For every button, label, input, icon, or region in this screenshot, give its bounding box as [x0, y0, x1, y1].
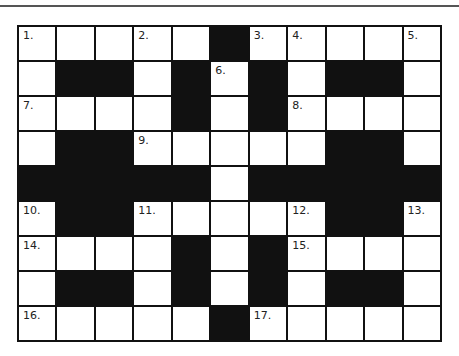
- clue-number: 17.: [254, 310, 272, 321]
- crossword-cell[interactable]: [288, 272, 324, 305]
- crossword-black-cell: [173, 237, 209, 270]
- top-rule-divider: [0, 5, 459, 7]
- crossword-cell[interactable]: [173, 307, 209, 340]
- crossword-cell[interactable]: [365, 307, 401, 340]
- crossword-cell[interactable]: [250, 132, 286, 165]
- crossword-cell[interactable]: 8.: [288, 97, 324, 130]
- clue-number: 9.: [138, 135, 149, 146]
- crossword-cell[interactable]: [365, 27, 401, 60]
- crossword-cell[interactable]: [57, 97, 93, 130]
- crossword-cell[interactable]: 10.: [19, 202, 55, 235]
- crossword-cell[interactable]: [211, 272, 247, 305]
- crossword-cell[interactable]: 12.: [288, 202, 324, 235]
- clue-number: 14.: [23, 240, 41, 251]
- clue-number: 8.: [292, 100, 303, 111]
- crossword-grid: 1.2.3.4.5.6.7.8.9.10.11.12.13.14.15.16.1…: [17, 25, 442, 342]
- crossword-cell[interactable]: [57, 27, 93, 60]
- crossword-cell[interactable]: [404, 97, 440, 130]
- crossword-black-cell: [211, 307, 247, 340]
- crossword-cell[interactable]: [404, 272, 440, 305]
- crossword-cell[interactable]: 11.: [134, 202, 170, 235]
- crossword-cell[interactable]: [327, 97, 363, 130]
- crossword-cell[interactable]: 16.: [19, 307, 55, 340]
- crossword-cell[interactable]: [211, 167, 247, 200]
- crossword-cell[interactable]: [211, 97, 247, 130]
- crossword-cell[interactable]: [173, 27, 209, 60]
- crossword-cell[interactable]: 6.: [211, 62, 247, 95]
- crossword-cell[interactable]: 17.: [250, 307, 286, 340]
- crossword-cell[interactable]: [19, 132, 55, 165]
- clue-number: 6.: [215, 65, 226, 76]
- crossword-cell[interactable]: [327, 307, 363, 340]
- clue-number: 10.: [23, 205, 41, 216]
- crossword-cell[interactable]: [404, 132, 440, 165]
- crossword-black-cell: [19, 167, 55, 200]
- crossword-black-cell: [211, 27, 247, 60]
- crossword-cell[interactable]: [96, 307, 132, 340]
- crossword-cell[interactable]: 7.: [19, 97, 55, 130]
- crossword-cell[interactable]: [288, 307, 324, 340]
- crossword-black-cell: [327, 62, 363, 95]
- crossword-black-cell: [327, 272, 363, 305]
- crossword-cell[interactable]: [134, 62, 170, 95]
- crossword-cell[interactable]: [404, 62, 440, 95]
- crossword-cell[interactable]: [211, 202, 247, 235]
- crossword-cell[interactable]: [57, 237, 93, 270]
- crossword-cell[interactable]: [134, 237, 170, 270]
- crossword-black-cell: [173, 167, 209, 200]
- crossword-cell[interactable]: 3.: [250, 27, 286, 60]
- crossword-black-cell: [173, 97, 209, 130]
- crossword-cell[interactable]: [19, 62, 55, 95]
- crossword-cell[interactable]: [404, 237, 440, 270]
- crossword-cell[interactable]: [134, 97, 170, 130]
- crossword-black-cell: [365, 272, 401, 305]
- crossword-black-cell: [96, 202, 132, 235]
- crossword-black-cell: [327, 202, 363, 235]
- clue-number: 3.: [254, 30, 265, 41]
- crossword-cell[interactable]: 15.: [288, 237, 324, 270]
- crossword-cell[interactable]: [96, 27, 132, 60]
- crossword-cell[interactable]: 4.: [288, 27, 324, 60]
- clue-number: 15.: [292, 240, 310, 251]
- clue-number: 2.: [138, 30, 149, 41]
- crossword-cell[interactable]: [96, 237, 132, 270]
- clue-number: 4.: [292, 30, 303, 41]
- crossword-cell[interactable]: 9.: [134, 132, 170, 165]
- clue-number: 5.: [408, 30, 419, 41]
- crossword-cell[interactable]: [327, 27, 363, 60]
- crossword-cell[interactable]: 1.: [19, 27, 55, 60]
- crossword-cell[interactable]: [250, 202, 286, 235]
- crossword-cell[interactable]: 13.: [404, 202, 440, 235]
- crossword-cell[interactable]: 5.: [404, 27, 440, 60]
- crossword-cell[interactable]: [288, 132, 324, 165]
- crossword-black-cell: [327, 167, 363, 200]
- crossword-cell[interactable]: [211, 132, 247, 165]
- crossword-cell[interactable]: [327, 237, 363, 270]
- crossword-black-cell: [57, 62, 93, 95]
- crossword-black-cell: [96, 272, 132, 305]
- crossword-cell[interactable]: [365, 97, 401, 130]
- crossword-black-cell: [250, 237, 286, 270]
- crossword-black-cell: [57, 132, 93, 165]
- clue-number: 12.: [292, 205, 310, 216]
- crossword-cell[interactable]: [96, 97, 132, 130]
- crossword-cell[interactable]: [134, 307, 170, 340]
- crossword-cell[interactable]: 2.: [134, 27, 170, 60]
- crossword-cell[interactable]: [404, 307, 440, 340]
- clue-number: 7.: [23, 100, 34, 111]
- crossword-cell[interactable]: [211, 237, 247, 270]
- clue-number: 16.: [23, 310, 41, 321]
- crossword-black-cell: [365, 132, 401, 165]
- crossword-black-cell: [57, 167, 93, 200]
- crossword-cell[interactable]: [365, 237, 401, 270]
- crossword-cell[interactable]: [134, 272, 170, 305]
- crossword-black-cell: [134, 167, 170, 200]
- crossword-cell[interactable]: 14.: [19, 237, 55, 270]
- crossword-cell[interactable]: [173, 202, 209, 235]
- crossword-black-cell: [365, 202, 401, 235]
- crossword-black-cell: [250, 62, 286, 95]
- crossword-cell[interactable]: [57, 307, 93, 340]
- crossword-cell[interactable]: [173, 132, 209, 165]
- crossword-cell[interactable]: [19, 272, 55, 305]
- crossword-cell[interactable]: [288, 62, 324, 95]
